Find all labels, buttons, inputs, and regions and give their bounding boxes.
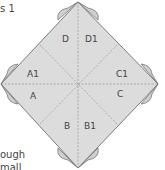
label-B1: B1 [84,121,96,131]
label-B: B [64,121,70,131]
label-A1: A1 [27,69,39,79]
label-D1: D1 [85,34,98,44]
label-C1: C1 [116,69,128,79]
label-D: D [62,34,69,44]
folded-square-diagram: D D1 A1 A C1 C B B1 [0,0,165,170]
diamond-body [1,2,158,168]
label-C: C [117,89,123,99]
label-A: A [30,91,37,101]
